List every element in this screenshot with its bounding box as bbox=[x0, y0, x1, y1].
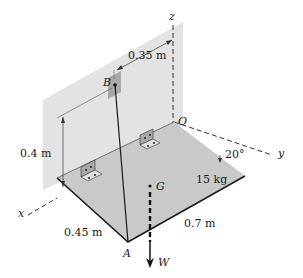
point-g bbox=[148, 184, 151, 187]
point-b-label: B bbox=[102, 76, 111, 89]
z-axis-label: z bbox=[168, 10, 175, 23]
x-axis bbox=[28, 198, 57, 215]
diagram-canvas: z x y O B G A W 0.35 m 0.4 m 0.45 m 0.7 … bbox=[0, 0, 303, 278]
point-a-label: A bbox=[122, 247, 131, 260]
dim-035-label: 0.35 m bbox=[128, 49, 167, 62]
dim-07-label: 0.7 m bbox=[184, 217, 216, 230]
point-b bbox=[113, 83, 117, 87]
origin-label: O bbox=[178, 115, 187, 128]
weight-label: W bbox=[158, 256, 171, 269]
angle-label: 20° bbox=[225, 148, 245, 161]
y-axis-label: y bbox=[277, 147, 285, 160]
dim-04-label: 0.4 m bbox=[20, 147, 52, 160]
x-axis-label: x bbox=[18, 207, 25, 220]
dim-045-label: 0.45 m bbox=[64, 226, 103, 239]
mass-label: 15 kg bbox=[196, 173, 227, 186]
point-g-label: G bbox=[156, 180, 165, 193]
